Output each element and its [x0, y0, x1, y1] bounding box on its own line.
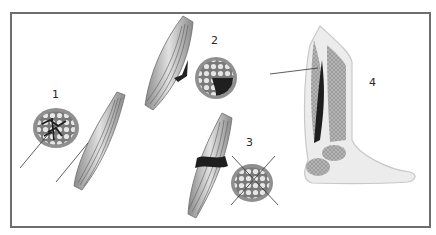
- panel-1-arrow-a: [20, 132, 50, 168]
- panel-1-muscle: [74, 92, 125, 190]
- panel-2-muscle: [145, 16, 193, 110]
- panel-3-label: 3: [246, 136, 253, 149]
- panel-1-cross-section: [33, 108, 79, 148]
- panel-1-label: 1: [52, 88, 59, 101]
- panel-3-muscle: [188, 113, 232, 218]
- panel-4-label: 4: [369, 76, 376, 89]
- panel-2-label: 2: [211, 34, 218, 47]
- panel-3-cross-section: [231, 156, 278, 205]
- panel-4-leg: [304, 26, 415, 184]
- panel-2-cross-section: [195, 57, 237, 99]
- anatomy-illustration: [0, 0, 436, 235]
